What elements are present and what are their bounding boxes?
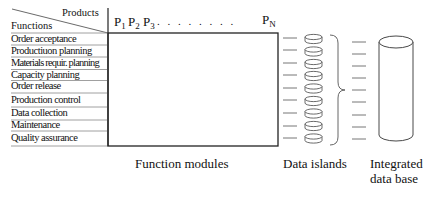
caption-integrated-line1: Integrated xyxy=(370,156,423,171)
caption-data-islands: Data islands xyxy=(283,156,347,171)
db-connectors xyxy=(352,42,366,139)
disc-icon xyxy=(305,96,322,105)
header-diagonal xyxy=(12,9,108,33)
function-modules-box xyxy=(108,33,278,146)
caption-function-modules: Function modules xyxy=(135,156,229,171)
database-cylinder-icon xyxy=(379,36,413,141)
disc-icon xyxy=(305,84,322,93)
curly-brace-icon xyxy=(330,35,345,145)
disc-icon xyxy=(305,109,322,118)
caption-integrated-database: Integrated data base xyxy=(370,156,423,186)
caption-integrated-line2: data base xyxy=(370,171,423,186)
disc-icon xyxy=(305,34,322,43)
disc-icon xyxy=(305,71,322,80)
island-connectors xyxy=(283,38,297,138)
disc-icon xyxy=(305,134,322,143)
disc-icon xyxy=(305,59,322,68)
disc-icon xyxy=(305,47,322,56)
data-island-discs xyxy=(305,34,322,143)
disc-icon xyxy=(305,121,322,130)
row-separators xyxy=(11,33,108,146)
